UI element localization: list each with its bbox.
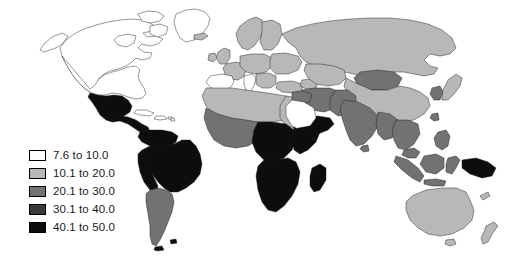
- region-philippines[interactable]: [434, 130, 450, 150]
- region-java[interactable]: [424, 179, 446, 186]
- region-borneo[interactable]: [420, 154, 444, 174]
- legend-label-2: 20.1 to 30.0: [53, 186, 115, 197]
- region-sumatra[interactable]: [394, 156, 424, 182]
- region-taiwan[interactable]: [430, 113, 439, 121]
- region-turkey[interactable]: [276, 81, 302, 93]
- region-scandinavia[interactable]: [236, 17, 264, 50]
- world-choropleth-map: 7.6 to 10.0 10.1 to 20.0 20.1 to 30.0 30…: [0, 0, 509, 262]
- region-indochina[interactable]: [392, 120, 420, 150]
- legend-row-1[interactable]: 10.1 to 20.0: [29, 164, 147, 182]
- region-puerto-rico[interactable]: [168, 117, 172, 119]
- legend-row-0[interactable]: 7.6 to 10.0: [29, 146, 147, 164]
- region-falkland-islands[interactable]: [170, 239, 177, 244]
- legend-label-4: 40.1 to 50.0: [53, 222, 115, 233]
- legend-swatch-0: [29, 150, 46, 161]
- region-iberia[interactable]: [206, 74, 234, 90]
- region-tasmania[interactable]: [445, 239, 456, 246]
- region-belarus-ukraine[interactable]: [270, 53, 302, 74]
- region-new-zealand[interactable]: [481, 222, 498, 244]
- region-cuba[interactable]: [134, 110, 154, 116]
- region-new-caledonia[interactable]: [480, 192, 490, 200]
- region-italy[interactable]: [244, 74, 256, 92]
- legend-row-3[interactable]: 30.1 to 40.0: [29, 200, 147, 218]
- region-finland-baltic[interactable]: [260, 20, 282, 50]
- region-sri-lanka[interactable]: [360, 145, 369, 152]
- region-australia[interactable]: [406, 188, 474, 236]
- region-korea[interactable]: [430, 86, 443, 100]
- legend-swatch-1: [29, 168, 46, 179]
- region-papua-new-guinea[interactable]: [462, 158, 496, 178]
- region-tierra-del-fuego[interactable]: [154, 246, 164, 251]
- region-southern-africa[interactable]: [256, 158, 300, 212]
- region-united-kingdom[interactable]: [216, 48, 230, 64]
- legend-swatch-2: [29, 186, 46, 197]
- region-hispaniola[interactable]: [154, 116, 167, 120]
- legend-label-3: 30.1 to 40.0: [53, 204, 115, 215]
- region-japan[interactable]: [442, 74, 462, 100]
- legend-label-0: 7.6 to 10.0: [53, 150, 108, 161]
- map-legend: 7.6 to 10.0 10.1 to 20.0 20.1 to 30.0 30…: [29, 146, 147, 236]
- region-sulawesi[interactable]: [446, 156, 460, 174]
- region-ireland[interactable]: [208, 53, 217, 62]
- region-canadian-arctic-islands[interactable]: [138, 11, 164, 23]
- legend-label-1: 10.1 to 20.0: [53, 168, 115, 179]
- legend-swatch-4: [29, 222, 46, 233]
- legend-row-2[interactable]: 20.1 to 30.0: [29, 182, 147, 200]
- legend-swatch-3: [29, 204, 46, 215]
- region-germany-poland[interactable]: [240, 54, 272, 74]
- region-madagascar[interactable]: [310, 164, 326, 192]
- region-argentina-chile[interactable]: [146, 188, 174, 246]
- region-central-africa[interactable]: [252, 122, 296, 162]
- region-baffin-island[interactable]: [150, 24, 168, 37]
- legend-row-4[interactable]: 40.1 to 50.0: [29, 218, 147, 236]
- region-balkans[interactable]: [256, 73, 276, 88]
